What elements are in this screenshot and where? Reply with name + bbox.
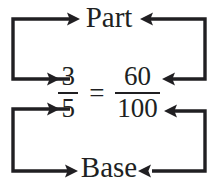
fraction-right: 60 100 [115, 63, 160, 122]
label-base: Base [0, 153, 218, 182]
equals-sign: = [89, 80, 104, 107]
equation: 3 5 = 60 100 [0, 62, 218, 124]
left-fraction-numerator: 3 [59, 63, 77, 91]
label-part: Part [0, 3, 218, 32]
right-fraction-denominator: 100 [115, 95, 160, 123]
left-fraction-denominator: 5 [59, 95, 77, 123]
proportion-diagram: Part 3 5 = 60 100 Base [0, 0, 218, 189]
fraction-left: 3 5 [58, 63, 78, 122]
right-fraction-numerator: 60 [122, 63, 153, 91]
